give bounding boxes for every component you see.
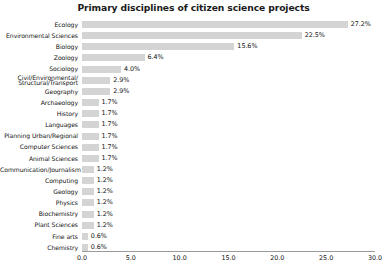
bar (82, 166, 94, 173)
bar-value-label: 1.2% (97, 165, 113, 173)
bar-row: Fine arts0.6% (0, 231, 387, 242)
x-tick-label: 20.0 (270, 254, 284, 262)
x-tick-label: 25.0 (319, 254, 333, 262)
bar-track: 1.2% (82, 209, 375, 220)
bar (82, 199, 94, 206)
bar-track: 4.0% (82, 64, 375, 75)
bar (82, 211, 94, 218)
x-tick-label: 15.0 (221, 254, 235, 262)
bar (82, 121, 99, 128)
bar-track: 2.9% (82, 75, 375, 86)
bar-value-label: 0.6% (91, 243, 107, 251)
bar-row: Geology1.2% (0, 186, 387, 197)
category-label: Communication/Journalism (0, 167, 78, 173)
bar-track: 1.2% (82, 175, 375, 186)
bar-row: Sociology4.0% (0, 64, 387, 75)
category-label: Animal Sciences (0, 156, 78, 162)
bar-row: Computing1.2% (0, 175, 387, 186)
bar-value-label: 22.5% (305, 31, 325, 39)
bar-track: 1.2% (82, 197, 375, 208)
bar-row: Communication/Journalism1.2% (0, 164, 387, 175)
bar-row: Biology15.6% (0, 41, 387, 52)
bar-row: Environmental Sciences22.5% (0, 30, 387, 41)
bar-track: 1.2% (82, 186, 375, 197)
category-label: Sociology (0, 66, 78, 72)
bar-track: 2.9% (82, 86, 375, 97)
bar-value-label: 1.2% (97, 198, 113, 206)
bar-value-label: 2.9% (113, 76, 129, 84)
bar (82, 222, 94, 229)
category-label: Civil/Environmental/ Structural/Transpor… (0, 75, 78, 86)
bar-value-label: 1.7% (102, 154, 118, 162)
bar-value-label: 1.7% (102, 120, 118, 128)
bar-track: 6.4% (82, 52, 375, 63)
bar-value-label: 1.2% (97, 187, 113, 195)
bar-track: 1.7% (82, 153, 375, 164)
category-label: Geology (0, 189, 78, 195)
category-label: Environmental Sciences (0, 33, 78, 39)
bar (82, 43, 234, 50)
bar (82, 77, 110, 84)
bar-track: 15.6% (82, 41, 375, 52)
bar-track: 1.7% (82, 131, 375, 142)
bar (82, 233, 88, 240)
category-label: Biology (0, 44, 78, 50)
bar-value-label: 27.2% (351, 20, 371, 28)
bar (82, 99, 99, 106)
category-label: Plant Sciences (0, 222, 78, 228)
bar-track: 1.7% (82, 108, 375, 119)
bar-track: 1.2% (82, 164, 375, 175)
bar (82, 66, 121, 73)
x-axis-tick-labels: 0.05.010.015.020.025.030.0 (0, 254, 387, 268)
bar (82, 155, 99, 162)
x-axis-line (82, 251, 375, 252)
bar-track: 27.2% (82, 19, 375, 30)
bar-value-label: 6.4% (148, 53, 164, 61)
x-tick-label: 30.0 (368, 254, 382, 262)
bar (82, 177, 94, 184)
bar-row: Ecology27.2% (0, 19, 387, 30)
x-tick-label: 10.0 (173, 254, 187, 262)
category-label: Geography (0, 89, 78, 95)
category-label: Computing (0, 178, 78, 184)
x-tick-label: 5.0 (126, 254, 136, 262)
bar-value-label: 1.2% (97, 210, 113, 218)
bar-value-label: 1.2% (97, 176, 113, 184)
plot-area: Ecology27.2%Environmental Sciences22.5%B… (0, 17, 387, 251)
bar-chart: Primary disciplines of citizen science p… (0, 0, 387, 273)
x-tick-label: 0.0 (77, 254, 87, 262)
bar (82, 188, 94, 195)
bar-row: Archaeology1.7% (0, 97, 387, 108)
bar-track: 1.2% (82, 220, 375, 231)
bar-value-label: 0.6% (91, 232, 107, 240)
bar-value-label: 2.9% (113, 87, 129, 95)
bar-value-label: 1.7% (102, 143, 118, 151)
category-label: History (0, 111, 78, 117)
bar-track: 1.7% (82, 119, 375, 130)
bar-row: Biochemistry1.2% (0, 209, 387, 220)
bar-value-label: 1.7% (102, 98, 118, 106)
chart-title: Primary disciplines of citizen science p… (0, 2, 387, 13)
bar-track: 1.7% (82, 97, 375, 108)
bar-track: 1.7% (82, 142, 375, 153)
bar-value-label: 4.0% (124, 65, 140, 73)
category-label: Languages (0, 122, 78, 128)
bar-row: Physics1.2% (0, 197, 387, 208)
category-label: Planning Urban/Regional (0, 133, 78, 139)
bar-track: 22.5% (82, 30, 375, 41)
bar (82, 32, 302, 39)
bar-row: Computer Sciences1.7% (0, 142, 387, 153)
bar (82, 110, 99, 117)
bar-value-label: 1.7% (102, 132, 118, 140)
bar-row: Animal Sciences1.7% (0, 153, 387, 164)
category-label: Chemistry (0, 245, 78, 251)
bar-track: 0.6% (82, 231, 375, 242)
bar-value-label: 15.6% (237, 42, 257, 50)
category-label: Ecology (0, 22, 78, 28)
category-label: Archaeology (0, 100, 78, 106)
bar (82, 133, 99, 140)
category-label: Computer Sciences (0, 144, 78, 150)
bar (82, 88, 110, 95)
bar-row: Languages1.7% (0, 119, 387, 130)
category-label: Physics (0, 200, 78, 206)
